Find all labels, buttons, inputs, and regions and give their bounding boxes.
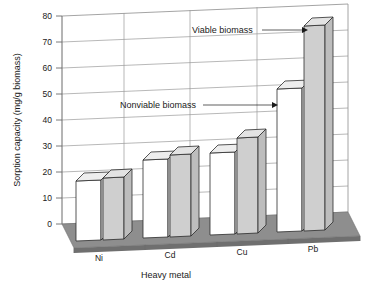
bar-chart: 80 70 60 50 40 30 20 10 0 Sorption capac… — [0, 0, 377, 287]
y-axis: 80 70 60 50 40 30 20 10 0 — [43, 11, 62, 229]
bar-group-pb — [277, 17, 333, 232]
y-tick-label-0: 0 — [47, 219, 52, 229]
y-tick-label-40: 40 — [43, 115, 53, 125]
bar-cd-viable — [170, 146, 199, 237]
bar-cu-viable — [237, 129, 266, 234]
bar-group-cu — [210, 129, 266, 235]
bar-group-cd — [143, 146, 199, 238]
x-tick-label-ni: Ni — [95, 253, 103, 263]
bar-group-ni — [76, 169, 132, 241]
chart-canvas: 80 70 60 50 40 30 20 10 0 Sorption capac… — [0, 0, 377, 287]
annotation-nonviable-biomass: Nonviable biomass — [120, 100, 278, 110]
annotation-nonviable-label: Nonviable biomass — [120, 100, 197, 110]
y-tick-label-10: 10 — [43, 193, 53, 203]
x-axis-title: Heavy metal — [141, 270, 191, 280]
y-tick-label-20: 20 — [43, 167, 53, 177]
x-tick-label-cd: Cd — [165, 250, 176, 260]
y-tick-label-80: 80 — [43, 11, 53, 21]
y-tick-label-30: 30 — [43, 141, 53, 151]
y-tick-label-60: 60 — [43, 63, 53, 73]
annotation-viable-label: Viable biomass — [192, 25, 253, 35]
y-axis-title: Sorption capacity (mg/g biomass) — [12, 53, 22, 187]
x-tick-label-cu: Cu — [237, 247, 248, 257]
bar-ni-viable — [103, 169, 132, 240]
annotation-viable-biomass: Viable biomass — [192, 25, 308, 35]
y-tick-label-50: 50 — [43, 89, 53, 99]
x-tick-label-pb: Pb — [308, 244, 319, 254]
bar-pb-viable — [304, 17, 333, 231]
y-tick-label-70: 70 — [43, 37, 53, 47]
